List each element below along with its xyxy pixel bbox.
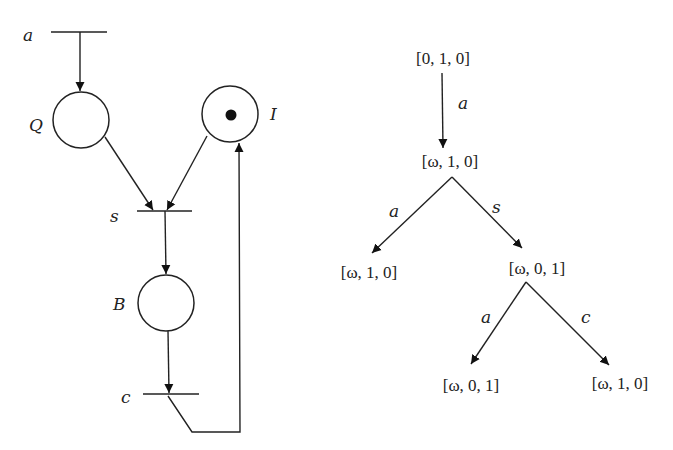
- arc-B-to-c: [168, 331, 169, 393]
- place-B: B: [112, 275, 194, 331]
- tree-edge-label-c: c: [581, 307, 591, 327]
- place-Q-circle: [53, 92, 109, 148]
- tree-edge-label-a: a: [458, 93, 468, 113]
- tree-node-right: [ω, 0, 1]: [509, 259, 566, 278]
- tree-edge-label-a-left: a: [389, 201, 399, 221]
- transition-s-label: s: [110, 206, 119, 226]
- arc-s-to-B: [165, 211, 166, 274]
- tree-node-leaf-left: [ω, 0, 1]: [443, 376, 500, 395]
- tree-edge-c-lower: [526, 282, 609, 365]
- place-I-label: I: [269, 104, 277, 124]
- place-Q-label: Q: [29, 115, 43, 135]
- tree-edge-a-left: [372, 177, 452, 253]
- tree-edge-a-lower: [471, 282, 526, 364]
- transition-s: s: [110, 206, 192, 226]
- place-B-label: B: [112, 294, 126, 314]
- place-Q: Q: [29, 92, 109, 148]
- transition-a-label: a: [23, 25, 33, 45]
- tree-node-leaf-right: [ω, 1, 0]: [592, 374, 649, 393]
- tree-node-level1: [ω, 1, 0]: [422, 152, 479, 171]
- tree-node-root: [0, 1, 0]: [416, 49, 470, 68]
- tree-node-left: [ω, 1, 0]: [341, 263, 398, 282]
- coverability-tree: [0, 1, 0] a [ω, 1, 0] a s [ω, 1, 0] [ω, …: [341, 49, 649, 395]
- place-I: I: [202, 86, 277, 142]
- diagram-canvas: a Q I s B c: [0, 0, 673, 450]
- petri-net: a Q I s B c: [23, 25, 277, 432]
- tree-edge-s-right: [452, 177, 522, 248]
- place-B-circle: [138, 275, 194, 331]
- transition-c: c: [121, 387, 199, 407]
- token-icon: [226, 110, 237, 121]
- arc-Q-to-s: [105, 137, 153, 210]
- tree-edge-label-s: s: [492, 197, 501, 217]
- tree-edge-a-root: [442, 73, 443, 148]
- tree-edge-label-a-lower: a: [481, 307, 491, 327]
- arc-I-to-s: [167, 136, 207, 210]
- transition-a: a: [23, 25, 107, 45]
- transition-c-label: c: [121, 387, 131, 407]
